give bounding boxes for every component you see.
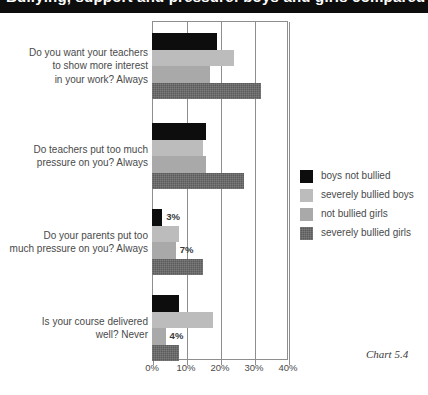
category-label-line: Do teachers put too much <box>0 143 148 157</box>
chart-title-band: Bullying, support and pressure: boys and… <box>0 0 428 13</box>
legend-label: severely bullied girls <box>321 226 411 240</box>
gridline <box>255 22 256 361</box>
legend-label: not bullied girls <box>321 207 388 221</box>
bar-value-label: 4% <box>170 329 184 343</box>
legend-swatch <box>300 208 313 221</box>
bar-value-label: 3% <box>166 210 180 224</box>
category-label-line: pressure on you? Always <box>0 156 148 170</box>
category-label-line: Do your parents put too <box>0 229 148 243</box>
legend-item[interactable]: severely bullied boys <box>300 186 424 205</box>
gridline <box>289 22 290 361</box>
bar <box>152 209 162 226</box>
category-label-line: to show more interest <box>0 59 148 73</box>
bar-value-label: 16% <box>0 124 202 138</box>
bar-value-label: 8% <box>0 296 175 310</box>
chart-title: Bullying, support and pressure: boys and… <box>6 0 425 5</box>
legend-item[interactable]: boys not bullied <box>300 167 424 186</box>
category-label-line: much pressure on you? Always <box>0 242 148 256</box>
legend-swatch <box>300 189 313 202</box>
legend-item[interactable]: severely bullied girls <box>300 224 424 243</box>
legend-label: boys not bullied <box>321 169 391 183</box>
chart-legend: boys not bulliedseverely bullied boysnot… <box>300 167 424 243</box>
bar-value-label: 15% <box>0 260 199 274</box>
category-label-line: Do you want your teachers <box>0 46 148 60</box>
legend-swatch <box>300 170 313 183</box>
bar <box>152 328 166 345</box>
category-label: Do teachers put too muchpressure on you?… <box>0 143 148 170</box>
category-label: Do your parents put toomuch pressure on … <box>0 229 148 256</box>
x-axis-label: 40% <box>268 362 308 373</box>
chart-caption: Chart 5.4 <box>366 348 408 360</box>
legend-swatch <box>300 227 313 240</box>
category-label: Do you want your teachersto show more in… <box>0 46 148 87</box>
legend-label: severely bullied boys <box>321 188 414 202</box>
bar-value-label: 27% <box>56 174 240 188</box>
gridline <box>221 22 222 361</box>
bar <box>152 242 176 259</box>
category-label-line: well? Never <box>0 328 148 342</box>
category-label: Is your course deliveredwell? Never <box>0 315 148 342</box>
bar-value-label: 7% <box>180 243 194 257</box>
category-label-line: in your work? Always <box>0 73 148 87</box>
category-label-line: Is your course delivered <box>0 315 148 329</box>
bar-value-label: 8% <box>0 346 175 360</box>
legend-item[interactable]: not bullied girls <box>300 205 424 224</box>
